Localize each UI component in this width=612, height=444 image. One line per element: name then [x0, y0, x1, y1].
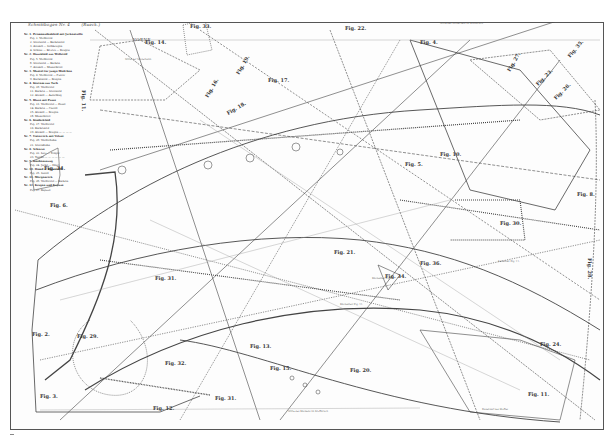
figure-label-fig-18: Fig. 18. [226, 100, 248, 117]
figure-label-fig-31-mid: Fig. 31. [155, 275, 176, 282]
figure-label-fig-14: Fig. 14. [145, 39, 166, 46]
pattern-piece-outline-large [38, 105, 600, 260]
figure-label-fig-3: Fig. 3. [40, 393, 58, 400]
figure-label-fig-28-r: Fig. 28. [586, 258, 593, 279]
pattern-annotation: Seitenteil Fig. 11. [498, 260, 520, 263]
figure-label-fig-35: Fig. 35. [566, 38, 585, 59]
figure-label-fig-17: Fig. 17. [268, 77, 289, 84]
figure-label-fig-22-top: Fig. 22. [345, 25, 366, 32]
figure-label-fig-6: Fig. 6. [50, 202, 68, 209]
figure-label-fig-2: Fig. 2. [32, 331, 50, 338]
figure-label-fig-4-top: Fig. 4. [420, 39, 438, 46]
figure-label-fig-21: Fig. 21. [334, 249, 355, 256]
figure-label-fig-19: Fig. 19. [235, 54, 252, 76]
pattern-piece-heavy-curve [85, 308, 600, 390]
page-marker [10, 434, 14, 435]
figure-label-fig-16: Fig. 16. [204, 77, 221, 99]
figure-label-fig-26-r: Fig. 26. [552, 81, 572, 101]
figure-label-fig-36: Fig. 36. [420, 260, 441, 267]
pattern-piece-fig14 [90, 40, 200, 100]
pattern-annotation: Fadenlauf des Stoffes [482, 408, 509, 411]
figure-label-fig-34-left: Fig. 34. [44, 165, 65, 172]
pattern-drawing: Fig. 14.Fig. 33.Fig. 22.Fig. 4.Fig. 11.F… [10, 22, 604, 430]
figure-label-fig-32: Fig. 32. [165, 360, 186, 367]
figure-label-fig-13: Fig. 13. [250, 343, 271, 350]
figure-label-fig-5: Fig. 5. [405, 161, 423, 168]
figure-label-fig-33: Fig. 33. [190, 23, 211, 30]
figure-label-fig-12: Fig. 12. [153, 405, 174, 412]
figure-label-fig-10: Fig. 10. [440, 151, 461, 158]
figure-label-fig-30: Fig. 30. [500, 220, 521, 227]
pattern-annotation: Rückenteil Fig. 11. [340, 303, 363, 306]
figure-label-fig-11-bottom: Fig. 11. [528, 391, 549, 398]
pattern-annotations: Mitte des Vorderteils im StoffbruchMitte… [125, 22, 520, 413]
figure-label-fig-11-left: Fig. 11. [80, 90, 87, 111]
pattern-annotation: Mitte des Vorderteils im Stoffbruch [440, 22, 483, 25]
pattern-piece-curve-bottom [36, 237, 600, 330]
figure-label-fig-23-r: Fig. 23. [534, 67, 554, 87]
figure-label-fig-8: Fig. 8. [577, 191, 595, 198]
pattern-annotation: Rückenteil Fig. 11. [372, 277, 395, 280]
pattern-annotation: Mitte des Rückens im Stoffbruch [288, 410, 328, 413]
figure-label-fig-24: Fig. 24. [540, 341, 561, 348]
figure-label-fig-29: Fig. 29. [77, 333, 98, 340]
pattern-annotation: Mitte der Vorderbahn [125, 58, 152, 61]
figure-label-fig-20: Fig. 20. [350, 367, 371, 374]
figure-label-fig-15: Fig. 15. [270, 365, 291, 372]
figure-label-fig-31-bottom: Fig. 31. [215, 395, 236, 402]
